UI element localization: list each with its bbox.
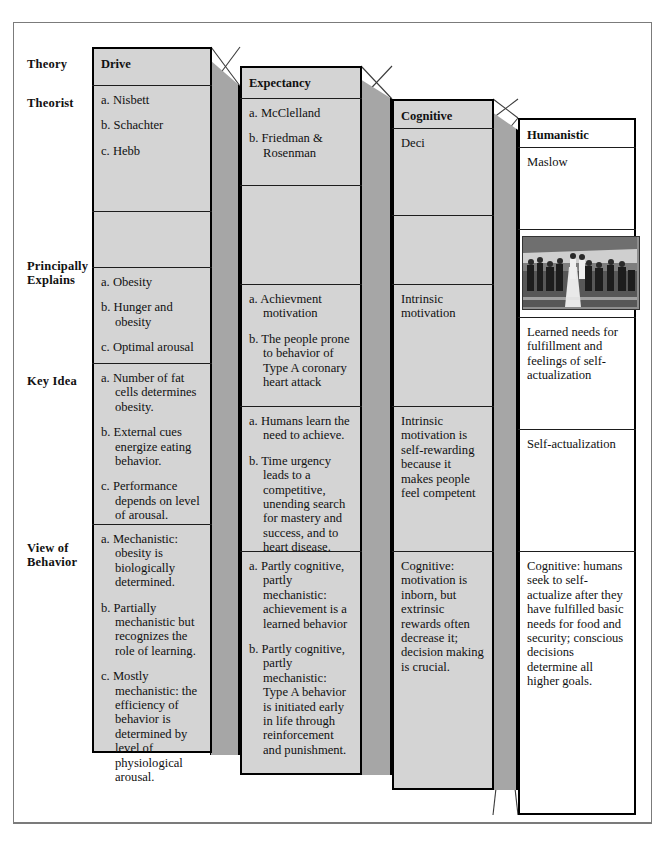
cell-drive-title: Drive bbox=[92, 47, 212, 86]
cell-expectancy-title: Expectancy bbox=[240, 66, 362, 99]
humanistic-ki-a: Self-actualization bbox=[527, 437, 627, 451]
expectancy-pe-b: b. The people prone to behavior of Type … bbox=[249, 332, 353, 390]
cell-expectancy-view-of-behavior: a. Partly cognitive, partly mechanistic:… bbox=[240, 552, 362, 775]
column-humanistic-title-text: Humanistic bbox=[527, 128, 589, 142]
figure-canvas: Theory Theorist Principally Explains Key… bbox=[0, 0, 667, 848]
row-label-key-idea-text: Key Idea bbox=[27, 374, 77, 388]
cell-drive-theorist: a. Nisbett b. Schachter c. Hebb bbox=[92, 86, 212, 212]
cell-humanistic-theorist: Maslow bbox=[518, 148, 636, 230]
cognitive-theorist-a: Deci bbox=[401, 136, 485, 150]
drive-theorist-c: c. Hebb bbox=[101, 144, 203, 158]
cell-expectancy-key-idea: a. Humans learn the need to achieve. b. … bbox=[240, 407, 362, 552]
row-label-view-of: View of bbox=[27, 541, 69, 555]
row-label-theory-text: Theory bbox=[27, 57, 67, 71]
humanistic-pe-a: Learned needs for fulfillment and feelin… bbox=[527, 325, 627, 383]
drive-vb-a: a. Mechanistic: obesity is biologically … bbox=[101, 532, 203, 590]
cell-drive-principally-explains: a. Obesity b. Hunger and obesity c. Opti… bbox=[92, 268, 212, 364]
humanistic-vb-a: Cognitive: humans seek to self-actualize… bbox=[527, 559, 627, 689]
column-drive-title-text: Drive bbox=[101, 57, 131, 71]
drive-pe-a: a. Obesity bbox=[101, 275, 203, 289]
cognitive-pe-a: Intrinsic motivation bbox=[401, 292, 485, 321]
row-label-principally: Principally bbox=[27, 259, 88, 273]
side-face-expectancy bbox=[360, 79, 392, 775]
drive-vb-c: c. Mostly mechanistic: the efficiency of… bbox=[101, 669, 203, 784]
cell-drive-blank bbox=[92, 212, 212, 268]
cell-cognitive-blank bbox=[392, 216, 494, 285]
drive-theorist-b: b. Schachter bbox=[101, 118, 203, 132]
expectancy-vb-b: b. Partly cognitive, partly mechanistic:… bbox=[249, 642, 353, 757]
cognitive-vb-a: Cognitive: motivation is inborn, but ext… bbox=[401, 559, 485, 674]
row-label-explains: Explains bbox=[27, 273, 75, 287]
expectancy-ki-b: b. Time urgency leads to a competitive, … bbox=[249, 454, 353, 555]
cell-cognitive-view-of-behavior: Cognitive: motivation is inborn, but ext… bbox=[392, 552, 494, 790]
column-cognitive-title-text: Cognitive bbox=[401, 109, 452, 123]
cell-drive-key-idea: a. Number of fat cells determines obesit… bbox=[92, 364, 212, 525]
row-label-theorist-text: Theorist bbox=[27, 96, 74, 110]
drive-pe-b: b. Hunger and obesity bbox=[101, 300, 203, 329]
expectancy-ki-a: a. Humans learn the need to achieve. bbox=[249, 414, 353, 443]
expectancy-pe-a: a. Achievment motivation bbox=[249, 292, 353, 321]
column-expectancy[interactable]: Expectancy a. McClelland b. Friedman & R… bbox=[240, 66, 362, 775]
drive-pe-c: c. Optimal arousal bbox=[101, 340, 203, 354]
cell-cognitive-title: Cognitive bbox=[392, 99, 494, 129]
cell-cognitive-key-idea: Intrinsic motivation is self-rewarding b… bbox=[392, 407, 494, 552]
drive-ki-a: a. Number of fat cells determines obesit… bbox=[101, 371, 203, 414]
column-expectancy-title-text: Expectancy bbox=[249, 76, 311, 90]
expectancy-theorist-b: b. Friedman & Rosenman bbox=[249, 131, 353, 160]
cell-cognitive-theorist: Deci bbox=[392, 129, 494, 216]
cell-expectancy-theorist: a. McClelland b. Friedman & Rosenman bbox=[240, 99, 362, 186]
cell-expectancy-principally-explains: a. Achievment motivation b. The people p… bbox=[240, 285, 362, 407]
cell-humanistic-principally-explains: Learned needs for fulfillment and feelin… bbox=[518, 318, 636, 430]
row-label-behavior: Behavior bbox=[27, 555, 77, 569]
cell-humanistic-key-idea: Self-actualization bbox=[518, 430, 636, 552]
side-face-drive bbox=[210, 60, 240, 755]
bottom-rule bbox=[13, 822, 652, 823]
drive-ki-b: b. External cues energize eating behavio… bbox=[101, 425, 203, 468]
cognitive-ki-a: Intrinsic motivation is self-rewarding b… bbox=[401, 414, 485, 500]
drive-vb-b: b. Partially mechanistic but recognizes … bbox=[101, 601, 203, 659]
cell-expectancy-blank bbox=[240, 186, 362, 285]
side-face-cognitive bbox=[492, 112, 518, 790]
drive-theorist-a: a. Nisbett bbox=[101, 93, 203, 107]
cell-humanistic-photo bbox=[518, 230, 636, 318]
expectancy-theorist-a: a. McClelland bbox=[249, 106, 353, 120]
column-cognitive[interactable]: Cognitive Deci Intrinsic motivation Intr… bbox=[392, 99, 494, 790]
cell-humanistic-view-of-behavior: Cognitive: humans seek to self-actualize… bbox=[518, 552, 636, 815]
drive-ki-c: c. Performance depends on level of arous… bbox=[101, 479, 203, 522]
cell-humanistic-title: Humanistic bbox=[518, 118, 636, 148]
column-humanistic[interactable]: Humanistic Maslow bbox=[518, 118, 636, 815]
humanistic-theorist-a: Maslow bbox=[527, 155, 627, 169]
cell-drive-view-of-behavior: a. Mechanistic: obesity is biologically … bbox=[92, 525, 212, 753]
column-drive[interactable]: Drive a. Nisbett b. Schachter c. Hebb a.… bbox=[92, 47, 212, 753]
photo-runners-marathon-icon bbox=[522, 236, 640, 310]
expectancy-vb-a: a. Partly cognitive, partly mechanistic:… bbox=[249, 559, 353, 631]
cell-cognitive-principally-explains: Intrinsic motivation bbox=[392, 285, 494, 407]
